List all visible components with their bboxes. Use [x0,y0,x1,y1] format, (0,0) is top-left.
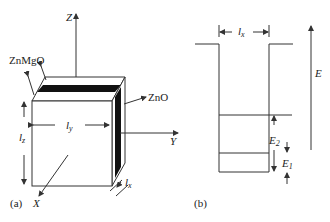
panel-a-tag: (a) [10,198,22,209]
energy-axis-label: E [315,68,322,79]
z-axis-label: Z [66,12,72,23]
diagram-canvas [0,0,330,222]
zno-label: ZnO [148,92,168,103]
y-axis-label: Y [170,136,176,147]
e2-label: E2 [269,135,280,148]
lx-label-b: lx [238,26,245,39]
potential-well [195,25,311,184]
lx-label-a: lx [125,177,132,190]
panel-b-tag: (b) [194,198,207,209]
znmgo-label: ZnMgO [9,55,44,66]
quantum-well-block [24,14,178,196]
lz-label: lz [19,132,25,145]
ly-label: ly [66,120,73,133]
x-axis-label: X [33,198,40,209]
e1-label: E1 [282,158,293,171]
